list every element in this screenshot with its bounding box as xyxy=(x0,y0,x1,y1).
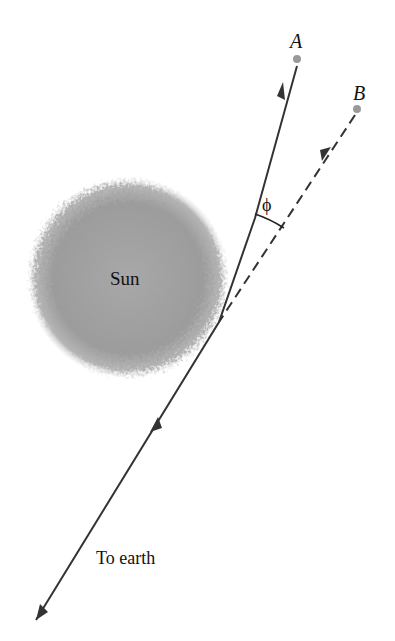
label-a: A xyxy=(290,30,302,53)
arrowhead-icon xyxy=(36,604,48,620)
point-b xyxy=(353,105,361,113)
label-b: B xyxy=(353,82,365,105)
label-phi: ϕ xyxy=(262,195,271,216)
label-sun: Sun xyxy=(110,268,140,290)
diagram-svg xyxy=(0,0,395,641)
arrowhead-icon xyxy=(277,82,285,100)
angle-arc xyxy=(255,214,284,228)
point-a xyxy=(293,55,301,63)
diagram-canvas: A B Sun ϕ To earth xyxy=(0,0,395,641)
label-to-earth: To earth xyxy=(96,548,155,569)
apparent-light-path xyxy=(219,115,355,322)
